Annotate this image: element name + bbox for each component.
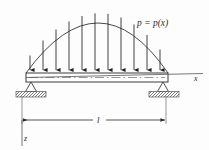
span-length-label: l (97, 115, 100, 125)
support-right-triangle (158, 82, 169, 92)
support-left-triangle (26, 82, 37, 92)
x-axis-label: x (193, 74, 198, 83)
support-left-ground (16, 92, 46, 98)
z-axis-label: z (23, 134, 28, 143)
support-right-ground (149, 92, 179, 98)
beam-load-diagram: p = p(x) x z l (0, 0, 209, 150)
load-function-label: p = p(x) (136, 18, 168, 29)
diagram-canvas: p = p(x) x z l (0, 0, 209, 150)
